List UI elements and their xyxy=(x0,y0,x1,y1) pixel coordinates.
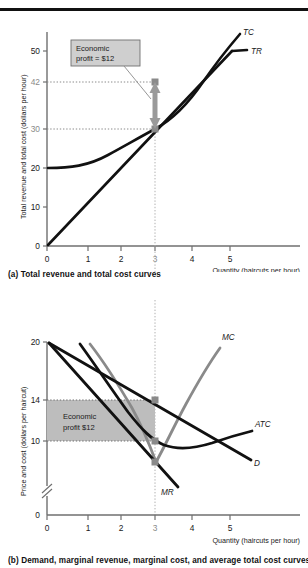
panel-b-marker-price-14 xyxy=(152,397,159,404)
panel-a-callout-box: Economic profit = $12 xyxy=(71,40,151,99)
panel-b-ytick-10: 10 xyxy=(31,436,41,446)
panel-b-y-axis-title: Price and cost (dollars per haircut) xyxy=(19,387,28,496)
panel-a-x-axis-title: Quantity (haircuts per hour) xyxy=(213,266,301,272)
panel-b-shade-line1: Economic xyxy=(63,412,97,421)
panel-b-xtick-0: 0 xyxy=(45,523,50,533)
panel-a-ytick-42: 42 xyxy=(31,77,41,87)
panel-a-y-axis-title: Total revenue and total cost (dollars pe… xyxy=(19,74,28,219)
panel-b-x-axis-title: Quantity (haircuts per hour) xyxy=(213,536,301,545)
panel-a-ytick-30: 30 xyxy=(31,124,41,134)
panel-b-label-mc: MC xyxy=(222,333,235,342)
panel-a-tr-curve-tail xyxy=(232,50,247,51)
panel-a-ytick-0: 0 xyxy=(35,241,40,251)
panel-a-callout-line2: profit = $12 xyxy=(76,54,114,63)
panel-a-ytick-10: 10 xyxy=(31,202,41,212)
panel-a-x-ticks xyxy=(47,246,230,251)
panel-a-callout-line1: Economic xyxy=(76,44,110,53)
panel-b-xtick-5: 5 xyxy=(228,523,233,533)
panel-b-caption: (b) Demand, marginal revenue, marginal c… xyxy=(8,556,308,568)
header-rule xyxy=(0,8,308,11)
panel-b-ytick-14: 14 xyxy=(31,395,41,405)
panel-a-label-tc: TC xyxy=(243,28,254,37)
panel-a-xtick-5: 5 xyxy=(228,254,233,264)
panel-b-xtick-2: 2 xyxy=(119,523,124,533)
panel-a-xtick-4: 4 xyxy=(190,254,195,264)
panel-b-label-atc: ATC xyxy=(254,420,271,429)
panel-b-xtick-3: 3 xyxy=(153,523,158,533)
panel-b-ytick-0: 0 xyxy=(35,510,40,520)
panel-a-label-tr: TR xyxy=(251,47,262,56)
panel-b-marker-mr-mc xyxy=(152,459,159,466)
figure-container: Total revenue and total cost (dollars pe… xyxy=(0,0,308,568)
panel-a-ytick-50: 50 xyxy=(31,46,41,56)
panel-a-total-revenue-total-cost: Total revenue and total cost (dollars pe… xyxy=(0,14,308,272)
panel-a-profit-arrow xyxy=(150,82,161,129)
panel-b-label-mr: MR xyxy=(161,488,174,497)
panel-b-xtick-4: 4 xyxy=(190,523,195,533)
panel-b-ytick-20: 20 xyxy=(31,337,41,347)
panel-b-label-d: D xyxy=(254,459,260,468)
clipped-header-text xyxy=(40,0,270,6)
panel-a-xtick-0: 0 xyxy=(45,254,50,264)
panel-a-xtick-1: 1 xyxy=(86,254,91,264)
panel-b-svg: Price and cost (dollars per haircut) 20 … xyxy=(0,300,308,550)
panel-b-x-ticks xyxy=(47,515,230,520)
panel-a-ytick-20: 20 xyxy=(31,163,41,173)
panel-a-caption: (a) Total revenue and total cost curves xyxy=(8,270,161,279)
panel-a-xtick-2: 2 xyxy=(119,254,124,264)
panel-b-marker-atc-10 xyxy=(152,438,159,445)
panel-b-xtick-1: 1 xyxy=(86,523,91,533)
panel-b-shade-line2: profit $12 xyxy=(63,423,95,432)
panel-b-demand-mr-mc-atc: Price and cost (dollars per haircut) 20 … xyxy=(0,300,308,550)
panel-a-svg: Total revenue and total cost (dollars pe… xyxy=(0,14,308,272)
